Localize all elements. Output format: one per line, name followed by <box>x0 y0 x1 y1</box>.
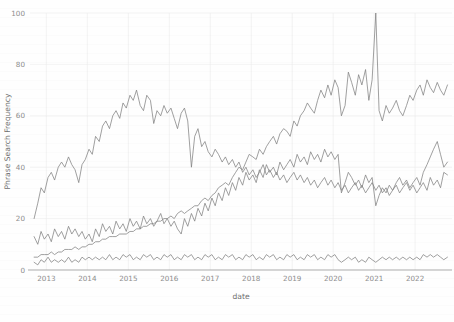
y-tick-label: 0 <box>20 266 25 275</box>
x-tick-label: 2016 <box>160 274 179 283</box>
y-axis-title: Phrase Search Frequency <box>3 93 12 189</box>
y-tick-label: 100 <box>11 9 25 18</box>
x-tick-label: 2018 <box>242 274 261 283</box>
y-tick-label: 60 <box>16 111 26 120</box>
y-tick-label: 20 <box>16 214 26 223</box>
y-tick-label: 80 <box>16 60 26 69</box>
x-tick-label: 2022 <box>406 274 424 283</box>
x-axis-title: date <box>232 292 249 301</box>
chart-figure: 0204060801002013201420152016201720182019… <box>0 0 454 322</box>
x-tick-label: 2020 <box>324 274 343 283</box>
x-tick-label: 2015 <box>119 274 137 283</box>
x-tick-label: 2019 <box>283 274 302 283</box>
series-line <box>34 255 447 265</box>
x-tick-label: 2013 <box>37 274 55 283</box>
y-tick-label: 40 <box>16 163 26 172</box>
x-tick-label: 2017 <box>201 274 219 283</box>
x-tick-label: 2014 <box>78 274 97 283</box>
line-chart-canvas: 0204060801002013201420152016201720182019… <box>0 0 454 322</box>
series-line <box>34 13 447 257</box>
y-tick-labels: 020406080100 <box>11 9 25 275</box>
gridlines <box>30 13 452 270</box>
series-line <box>34 142 447 245</box>
series-group <box>34 13 447 265</box>
x-tick-labels: 2013201420152016201720182019202020212022 <box>37 274 424 283</box>
x-tick-label: 2021 <box>365 274 383 283</box>
